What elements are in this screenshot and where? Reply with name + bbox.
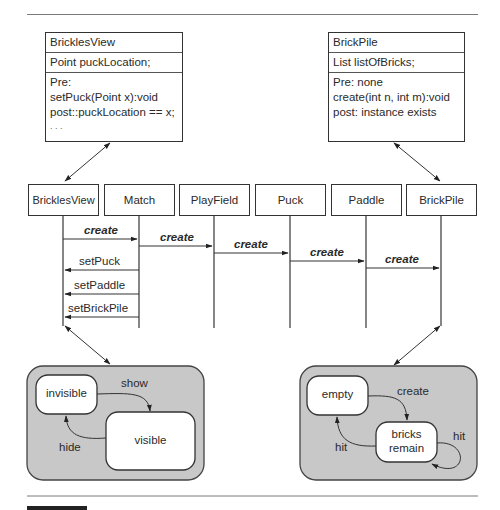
msg-label-set-paddle: setPaddle bbox=[74, 279, 125, 291]
state-label-bricks-remain: bricks remain bbox=[376, 427, 437, 455]
msg-label-create-5: create bbox=[385, 253, 419, 265]
transition-label-create: create bbox=[397, 385, 429, 397]
msg-label-create-3: create bbox=[234, 238, 268, 250]
state-label-visible: visible bbox=[106, 434, 195, 446]
state-label-invisible: invisible bbox=[36, 387, 97, 399]
caption-fragment bbox=[27, 506, 87, 510]
lifeline-head-brick-pile: BrickPile bbox=[406, 184, 477, 216]
lifeline-head-puck: Puck bbox=[255, 184, 326, 216]
transition-label-hide: hide bbox=[59, 441, 81, 453]
msg-label-create-2: create bbox=[160, 231, 194, 243]
lifeline-head-paddle: Paddle bbox=[331, 184, 402, 216]
transition-label-hit-to-empty: hit bbox=[335, 441, 347, 453]
assoc-arrow-left-state bbox=[65, 326, 110, 364]
msg-label-set-puck: setPuck bbox=[79, 255, 120, 267]
assoc-arrow-left bbox=[65, 143, 110, 181]
state-label-empty: empty bbox=[307, 388, 368, 400]
state-label-line: remain bbox=[376, 441, 437, 455]
lifeline-head-match: Match bbox=[104, 184, 175, 216]
assoc-arrow-right-state bbox=[394, 326, 440, 365]
msg-label-create-1: create bbox=[84, 224, 118, 236]
lifeline-head-brickles-view: BricklesView bbox=[28, 184, 99, 216]
msg-label-create-4: create bbox=[310, 246, 344, 258]
transition-label-show: show bbox=[121, 377, 148, 389]
msg-label-set-brick-pile: setBrickPile bbox=[68, 302, 128, 314]
state-label-line: bricks bbox=[376, 427, 437, 441]
assoc-arrow-right bbox=[394, 143, 440, 181]
transition-label-hit-self: hit bbox=[453, 430, 465, 442]
lifeline-head-playfield: PlayField bbox=[179, 184, 250, 216]
